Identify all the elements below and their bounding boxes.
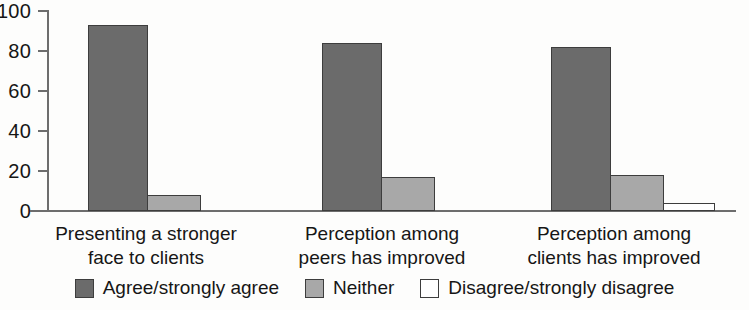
legend-swatch-icon-agree [75, 279, 94, 298]
legend-item-neither: Neither [305, 278, 394, 298]
plot-area: 100 80 60 40 20 0 Presenting a stro [0, 0, 749, 225]
category-label-1: Presenting a stronger face to clients [46, 222, 246, 270]
legend-swatch-icon-neither [305, 279, 324, 298]
legend-item-disagree: Disagree/strongly disagree [420, 278, 674, 298]
bar-chart: 100 80 60 40 20 0 Presenting a stro [0, 0, 749, 310]
bar-neither-group-1 [147, 195, 201, 211]
bar-neither-group-3 [610, 175, 664, 211]
legend-label-neither: Neither [333, 278, 394, 298]
legend-label-agree: Agree/strongly agree [103, 278, 279, 298]
chart-legend: Agree/strongly agree Neither Disagree/st… [0, 278, 749, 298]
legend-swatch-icon-disagree [420, 279, 439, 298]
bar-agree-group-3 [551, 47, 611, 211]
legend-item-agree: Agree/strongly agree [75, 278, 279, 298]
legend-label-disagree: Disagree/strongly disagree [448, 278, 674, 298]
bar-neither-group-2 [381, 177, 435, 211]
bar-disagree-group-3 [663, 203, 715, 211]
bar-agree-group-1 [88, 25, 148, 211]
category-label-3: Perception among clients has improved [508, 222, 720, 270]
bar-agree-group-2 [322, 43, 382, 211]
category-label-2: Perception among peers has improved [282, 222, 482, 270]
bars-layer [0, 0, 749, 211]
